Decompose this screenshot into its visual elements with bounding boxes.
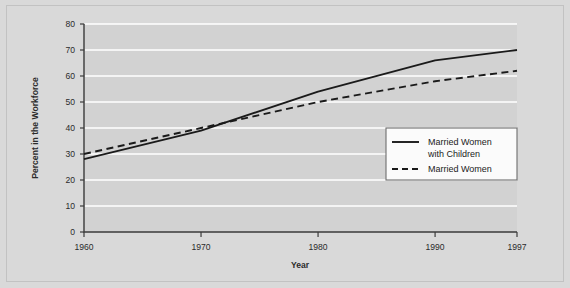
x-tick-label: 1970 — [191, 242, 210, 252]
y-tick-label: 70 — [65, 45, 75, 55]
x-axis-title: Year — [291, 260, 310, 270]
y-tick-label: 80 — [65, 19, 75, 29]
legend-label-solid-line1: Married Women — [428, 137, 492, 147]
x-tick-label: 1980 — [308, 242, 327, 252]
x-tick-label: 1960 — [74, 242, 93, 252]
y-tick-label: 0 — [70, 227, 75, 237]
y-tick-label: 50 — [65, 97, 75, 107]
y-tick-label: 10 — [65, 201, 75, 211]
chart-figure: 01020304050607080 19601970198019901997 Y… — [0, 0, 570, 288]
x-tick-label: 1997 — [507, 242, 526, 252]
x-axis-tick-labels: 19601970198019901997 — [74, 242, 526, 252]
y-axis-tick-labels: 01020304050607080 — [65, 19, 75, 237]
y-tick-label: 60 — [65, 71, 75, 81]
y-axis-title: Percent in the Workforce — [30, 77, 40, 179]
x-axis-ticks — [84, 232, 517, 237]
y-tick-label: 30 — [65, 149, 75, 159]
legend-label-solid-line2: with Children — [427, 149, 480, 159]
y-tick-label: 40 — [65, 123, 75, 133]
legend-label-dashed-line1: Married Women — [428, 164, 492, 174]
workforce-participation-line-chart: 01020304050607080 19601970198019901997 Y… — [0, 0, 570, 288]
legend: Married Women with Children Married Wome… — [386, 128, 517, 180]
x-tick-label: 1990 — [426, 242, 445, 252]
y-tick-label: 20 — [65, 175, 75, 185]
